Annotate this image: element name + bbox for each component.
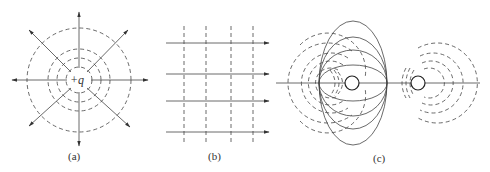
panel-b-uniform-field bbox=[166, 26, 269, 145]
panel-c-two-charges bbox=[276, 21, 480, 145]
charge-label: +q bbox=[70, 73, 84, 88]
panel-a-label: (a) bbox=[68, 150, 80, 162]
panel-b-label: (b) bbox=[208, 150, 221, 162]
left-charge bbox=[345, 76, 359, 90]
panel-c-label: (c) bbox=[373, 152, 385, 164]
right-charge bbox=[411, 76, 425, 90]
